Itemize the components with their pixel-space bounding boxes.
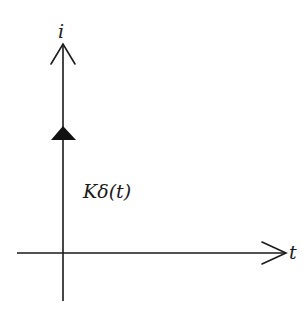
x-axis-label: t <box>289 241 297 263</box>
y-axis-label: i <box>58 20 64 42</box>
impulse-label: Kδ(t) <box>82 180 131 202</box>
impulse-diagram: i t Kδ(t) <box>0 0 307 311</box>
impulse-arrowhead-icon <box>51 126 76 140</box>
